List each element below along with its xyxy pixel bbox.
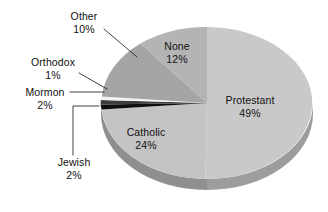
slice-label-protestant-name: Protestant: [213, 94, 287, 107]
slice-label-none-percent: 12%: [151, 53, 203, 66]
leader-line-jewish: [73, 106, 99, 155]
slice-label-catholic: Catholic 24%: [113, 126, 179, 151]
slice-label-mormon-name: Mormon: [15, 86, 75, 99]
slice-label-none-name: None: [151, 40, 203, 53]
slice-label-none: None 12%: [151, 40, 203, 65]
slice-label-catholic-percent: 24%: [113, 139, 179, 152]
slice-label-jewish-name: Jewish: [48, 156, 100, 169]
slice-label-mormon: Mormon 2%: [15, 86, 75, 111]
slice-label-orthodox: Orthodox 1%: [22, 56, 84, 81]
slice-label-jewish: Jewish 2%: [48, 156, 100, 181]
slice-label-other-percent: 10%: [57, 23, 111, 36]
pie-chart-figure: Protestant 49% Catholic 24% None 12% Oth…: [0, 0, 328, 212]
slice-label-other: Other 10%: [57, 10, 111, 35]
slice-label-protestant: Protestant 49%: [213, 94, 287, 119]
slice-label-jewish-percent: 2%: [48, 169, 100, 182]
slice-label-protestant-percent: 49%: [213, 107, 287, 120]
slice-label-orthodox-percent: 1%: [22, 69, 84, 82]
slice-label-mormon-percent: 2%: [15, 99, 75, 112]
slice-label-other-name: Other: [57, 10, 111, 23]
slice-label-catholic-name: Catholic: [113, 126, 179, 139]
slice-label-orthodox-name: Orthodox: [22, 56, 84, 69]
